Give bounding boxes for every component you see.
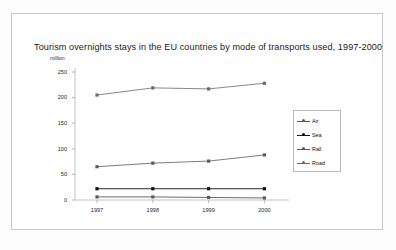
data-point-air — [95, 165, 98, 168]
legend-label: Road — [310, 160, 325, 166]
legend-marker-sea-icon — [297, 132, 310, 139]
data-point-sea — [151, 187, 154, 190]
series-line-road — [97, 83, 264, 95]
data-point-sea — [95, 187, 98, 190]
legend-marker-road-icon — [297, 160, 310, 167]
legend-label: Sea — [310, 132, 322, 138]
data-point-air — [151, 162, 154, 165]
legend-label: Rail — [310, 146, 321, 152]
data-point-air — [263, 153, 266, 156]
y-axis-tick-label: 250 — [45, 69, 67, 75]
legend-item-air[interactable]: Air — [297, 115, 341, 127]
legend-marker-air-icon — [297, 118, 310, 125]
data-point-road — [207, 87, 210, 90]
data-point-rail — [207, 196, 210, 199]
y-axis-tick-label: 100 — [45, 146, 67, 152]
x-axis-tick-label: 2000 — [249, 207, 279, 213]
data-point-road — [95, 93, 98, 96]
legend-item-road[interactable]: Road — [297, 157, 341, 169]
data-point-road — [151, 86, 154, 89]
x-axis-tick-label: 1997 — [82, 207, 112, 213]
data-point-rail — [151, 195, 154, 198]
data-point-air — [207, 159, 210, 162]
legend-marker-rail-icon — [297, 146, 310, 153]
legend-item-sea[interactable]: Sea — [297, 129, 341, 141]
legend-label: Air — [310, 118, 319, 124]
series-line-air — [97, 155, 264, 167]
legend-item-rail[interactable]: Rail — [297, 143, 341, 155]
chart-legend: AirSeaRailRoad — [293, 110, 341, 172]
y-axis-tick-label: 0 — [45, 197, 67, 203]
y-axis-tick-label: 50 — [45, 171, 67, 177]
y-axis-tick-label: 200 — [45, 94, 67, 100]
x-axis-tick-label: 1998 — [138, 207, 168, 213]
x-axis-tick-label: 1999 — [194, 207, 224, 213]
screenshot-page: Tourism overnights stays in the EU count… — [0, 0, 396, 250]
series-line-rail — [97, 197, 264, 198]
data-point-rail — [95, 195, 98, 198]
data-point-rail — [263, 196, 266, 199]
data-point-sea — [207, 187, 210, 190]
data-point-road — [263, 82, 266, 85]
y-axis-tick-label: 150 — [45, 120, 67, 126]
data-point-sea — [263, 187, 266, 190]
